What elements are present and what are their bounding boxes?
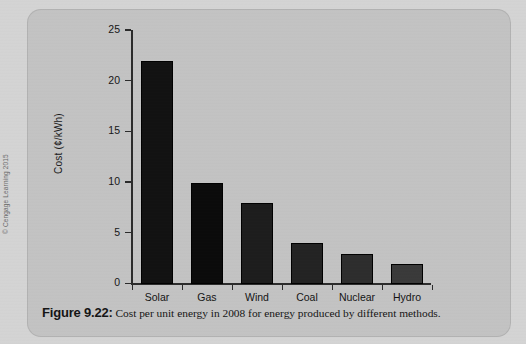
y-axis-tick-label: 25 xyxy=(94,23,120,35)
bar-coal xyxy=(291,243,323,284)
x-axis-label-solar: Solar xyxy=(132,291,182,303)
x-axis-tick xyxy=(282,285,283,290)
y-axis-tick-label: 0 xyxy=(94,276,120,288)
figure-card: Cost (¢/kWh) 0510152025 SolarGasWindCoal… xyxy=(28,10,510,336)
y-axis-tick xyxy=(125,283,131,284)
y-axis-tick xyxy=(125,80,131,81)
y-axis-tick xyxy=(125,181,131,182)
y-axis-tick-label: 15 xyxy=(94,124,120,136)
x-axis-tick xyxy=(132,285,133,290)
figure-caption-text: Cost per unit energy in 2008 for energy … xyxy=(115,307,440,319)
bar-hydro xyxy=(391,264,423,284)
y-axis-label: Cost (¢/kWh) xyxy=(53,84,64,204)
x-axis-tick xyxy=(182,285,183,290)
bar-wind xyxy=(241,203,273,284)
x-axis-label-gas: Gas xyxy=(182,291,232,303)
y-axis-tick xyxy=(125,131,131,132)
bar-solar xyxy=(141,61,173,284)
x-axis-tick xyxy=(382,285,383,290)
x-axis-tick xyxy=(332,285,333,290)
bar-group xyxy=(132,30,432,284)
x-axis-tick xyxy=(432,285,433,290)
y-axis-tick-label: 10 xyxy=(94,175,120,187)
copyright-notice: © Cengage Learning 2015 xyxy=(2,134,16,234)
bar-gas xyxy=(191,183,223,284)
figure-caption: Figure 9.22: Cost per unit energy in 200… xyxy=(42,305,502,321)
bar-nuclear xyxy=(341,254,373,284)
x-axis-label-coal: Coal xyxy=(282,291,332,303)
y-axis-tick xyxy=(125,232,131,233)
x-axis-label-hydro: Hydro xyxy=(382,291,432,303)
x-axis-label-wind: Wind xyxy=(232,291,282,303)
x-axis-label-nuclear: Nuclear xyxy=(332,291,382,303)
y-axis-tick-label: 20 xyxy=(94,74,120,86)
chart-plot-area: Cost (¢/kWh) 0510152025 SolarGasWindCoal… xyxy=(28,10,510,300)
x-axis-tick xyxy=(232,285,233,290)
figure-caption-label: Figure 9.22: xyxy=(42,305,113,320)
y-axis-tick xyxy=(125,29,131,30)
scanned-page-background: © Cengage Learning 2015 Cost (¢/kWh) 051… xyxy=(0,0,526,344)
y-axis-tick-label: 5 xyxy=(94,226,120,238)
